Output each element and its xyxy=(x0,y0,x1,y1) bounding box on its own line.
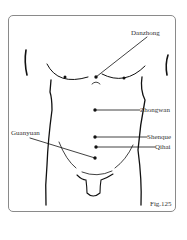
figure-caption: Fig.125 xyxy=(150,200,172,208)
label-shenque: Shenque xyxy=(147,133,171,141)
point-danzhong xyxy=(94,75,97,78)
label-qihai: Qihai xyxy=(155,143,171,151)
label-danzhong: Danzhong xyxy=(131,29,160,37)
label-guanyuan: Guanyuan xyxy=(11,129,40,137)
point-shenque xyxy=(93,135,96,138)
point-qihai xyxy=(94,145,97,148)
left-arm-line xyxy=(25,50,27,75)
label-zhongwan: Zhongwan xyxy=(140,106,170,114)
right-arm-line xyxy=(166,55,168,75)
right-nipple xyxy=(123,77,126,80)
left-nipple xyxy=(64,76,67,79)
point-guanyuan xyxy=(93,156,96,159)
point-zhongwan xyxy=(93,108,96,111)
